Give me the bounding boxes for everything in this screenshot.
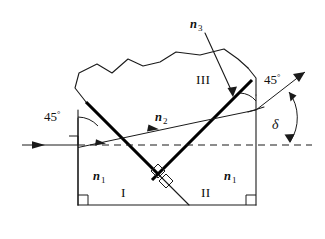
label-n1-left: n1 bbox=[93, 169, 105, 185]
label-delta: δ bbox=[272, 117, 279, 132]
angle-arc-right-45 bbox=[240, 93, 256, 101]
internal-ray-to-exit-face bbox=[198, 110, 256, 122]
label-n2: n2 bbox=[155, 110, 167, 126]
label-region-II: II bbox=[201, 185, 211, 200]
angle-arc-left-45 bbox=[78, 117, 98, 126]
right-angle-mark-left-vertex bbox=[69, 136, 78, 145]
label-region-III: III bbox=[196, 72, 210, 87]
label-angle-right-45: 45° bbox=[264, 72, 280, 87]
left-interface-continuation bbox=[159, 175, 189, 205]
ray-diagram-svg: n3 III n2 45° 45° δ n1 n1 I II bbox=[0, 0, 325, 239]
right-angle-mark-bottom-right bbox=[246, 195, 256, 205]
label-region-I: I bbox=[121, 185, 126, 200]
delta-arc-arrowhead-bottom bbox=[285, 134, 295, 143]
right-interface-thick bbox=[152, 80, 252, 180]
region-III-jagged-boundary bbox=[75, 49, 248, 102]
label-n3: n3 bbox=[190, 17, 203, 33]
delta-arc-arrowhead-top bbox=[289, 92, 297, 102]
figure-root: n3 III n2 45° 45° δ n1 n1 I II bbox=[0, 0, 325, 239]
incident-ray-arrowhead bbox=[32, 141, 45, 149]
right-angle-mark-bottom-left bbox=[78, 195, 88, 205]
label-angle-left-45: 45° bbox=[44, 109, 60, 124]
label-n1-right: n1 bbox=[224, 169, 236, 185]
right-angle-mark-v-lower bbox=[159, 174, 173, 188]
